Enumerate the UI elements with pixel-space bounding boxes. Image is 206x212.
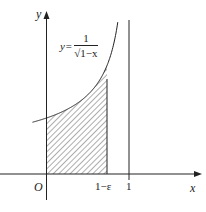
y-axis-arrow-icon (44, 11, 50, 19)
y-axis-label: y (36, 8, 41, 20)
tick-label-1-minus-eps: 1−ε (95, 181, 111, 192)
equation-label: y= 1 √1−x (60, 32, 98, 59)
shaded-region (47, 66, 108, 174)
equation-lhs: y= (60, 40, 72, 52)
equation-denominator: √1−x (74, 46, 97, 59)
figure: y x O 1−ε 1 y= 1 √1−x (0, 0, 206, 212)
tick-label-1: 1 (126, 181, 132, 192)
equation-numerator: 1 (74, 32, 97, 46)
x-axis-label: x (190, 182, 195, 194)
x-axis-arrow-icon (194, 171, 202, 177)
origin-label: O (34, 181, 43, 193)
